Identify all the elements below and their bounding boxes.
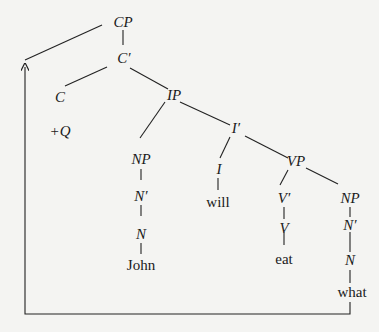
node-cp: CP: [113, 14, 132, 30]
node-nbar-subject: N′: [133, 188, 148, 204]
word-what: what: [337, 284, 367, 300]
movement-arrow: [25, 67, 350, 314]
edge-vp-vbar: [280, 170, 288, 185]
edge-ibar-i: [220, 137, 230, 158]
edge-cbar-c: [65, 67, 107, 86]
node-n-object: N: [344, 252, 356, 268]
word-will: will: [206, 194, 229, 210]
node-ip: IP: [166, 87, 181, 103]
word-john: John: [127, 257, 156, 273]
edge-ibar-vp: [245, 136, 288, 158]
feature-plus-q: +Q: [50, 123, 71, 139]
node-nbar-object: N′: [342, 217, 357, 233]
node-c: C: [55, 89, 66, 105]
edge-vp-np: [306, 168, 338, 184]
node-i: I: [216, 161, 223, 177]
syntax-tree: CP C′ C +Q IP NP N′ N John I′ I will VP …: [0, 0, 379, 332]
edge-cbar-ip: [130, 68, 168, 89]
node-cbar: C′: [117, 50, 131, 66]
node-ibar: I′: [231, 120, 241, 136]
word-eat: eat: [275, 251, 293, 267]
node-n-subject: N: [135, 226, 147, 242]
node-vp: VP: [287, 153, 305, 169]
node-np-object: NP: [339, 190, 359, 206]
edge-ip-np: [140, 102, 165, 138]
node-v: V: [279, 220, 290, 236]
edge-spec-cp: [25, 25, 102, 60]
node-np-subject: NP: [130, 151, 150, 167]
node-vbar: V′: [278, 190, 291, 206]
edge-ip-ibar: [180, 102, 230, 125]
